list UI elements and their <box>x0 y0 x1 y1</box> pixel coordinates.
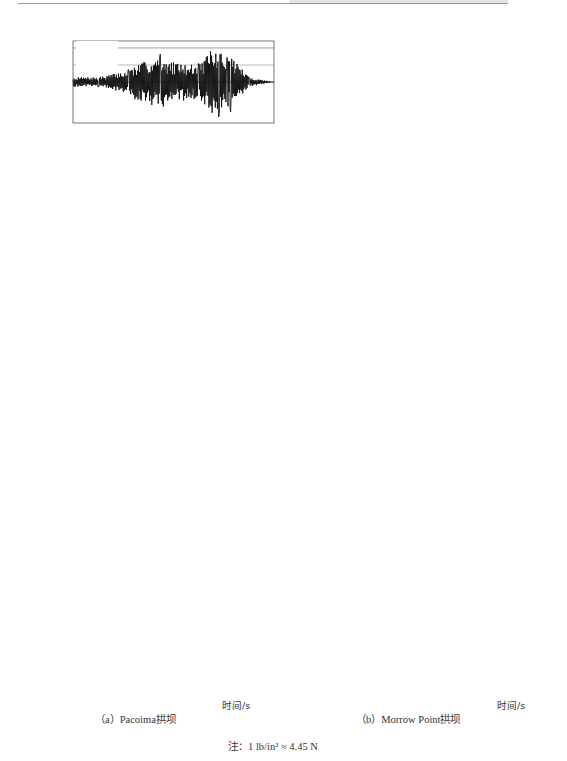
caption-left: （a）Pacoima拱坝 <box>95 711 176 726</box>
figure-canvas: DCR＝2DCR＝1 <box>0 0 567 761</box>
caption-right: （b）Morrow Point拱坝 <box>356 711 460 726</box>
unit-note: 注：1 lb/in² ≈ 4.45 N <box>228 738 318 753</box>
xlabel-right: 时间/s <box>497 698 525 712</box>
subplot-a-pacx: DCR＝2DCR＝1 <box>73 41 274 123</box>
xlabel-left: 时间/s <box>222 698 250 712</box>
